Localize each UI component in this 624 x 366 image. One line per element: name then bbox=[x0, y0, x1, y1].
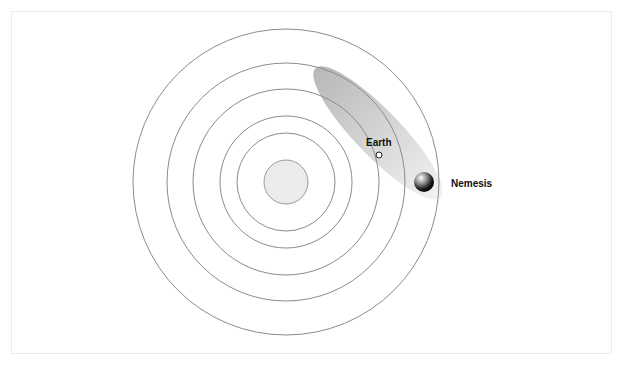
nemesis-sphere bbox=[414, 172, 434, 192]
nemesis-label: Nemesis bbox=[451, 178, 492, 189]
earth-marker bbox=[376, 152, 382, 158]
sun bbox=[264, 160, 308, 204]
earth-label: Earth bbox=[366, 137, 392, 148]
nemesis-orbit-ellipse bbox=[299, 52, 457, 213]
orbit-diagram bbox=[0, 0, 624, 366]
